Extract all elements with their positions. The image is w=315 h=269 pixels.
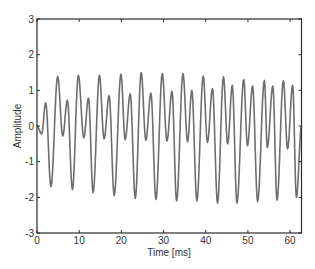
x-tick-label: 40 (200, 235, 212, 246)
x-tick-label: 60 (285, 235, 297, 246)
y-tick-label: -2 (25, 192, 34, 203)
y-tick-label: 0 (28, 121, 34, 132)
signal-line (37, 73, 302, 204)
y-tick-label: -3 (25, 228, 34, 239)
y-axis-label: Amplitude (12, 103, 23, 148)
y-tick-label: -1 (25, 156, 34, 167)
amplitude-time-chart: 0102030405060 -3-2-10123 Time [ms] Ampli… (0, 0, 315, 269)
y-tick-label: 2 (28, 49, 34, 60)
x-axis-label: Time [ms] (147, 247, 191, 258)
x-tick-label: 0 (34, 235, 40, 246)
x-tick-label: 10 (74, 235, 86, 246)
x-tick-label: 30 (158, 235, 170, 246)
y-axis-ticks: -3-2-10123 (25, 14, 301, 239)
x-tick-label: 20 (116, 235, 128, 246)
plot-area (37, 73, 302, 204)
x-tick-label: 50 (242, 235, 254, 246)
y-tick-label: 1 (28, 85, 34, 96)
y-tick-label: 3 (28, 14, 34, 25)
